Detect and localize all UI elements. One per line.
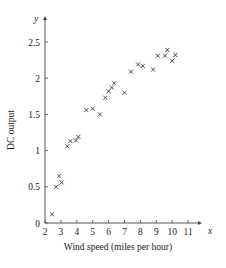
y-axis-arrow-icon xyxy=(43,16,47,20)
y-axis-variable: y xyxy=(33,14,39,24)
data-point-x-marker xyxy=(165,48,169,52)
data-point-x-marker xyxy=(151,68,155,72)
data-point-x-marker xyxy=(60,180,64,184)
data-point-x-marker xyxy=(76,135,80,139)
x-tick-label: 3 xyxy=(59,227,64,237)
data-point-x-marker xyxy=(98,112,102,116)
ticks: 23456789101100.511.522.5 xyxy=(28,38,193,238)
data-point-x-marker xyxy=(129,70,133,74)
x-tick-label: 6 xyxy=(106,227,111,237)
data-point-x-marker xyxy=(170,59,174,63)
x-tick-label: 10 xyxy=(167,227,177,237)
x-tick-label: 2 xyxy=(43,227,48,237)
data-point-x-marker xyxy=(57,174,61,178)
y-axis-label: DC output xyxy=(6,110,16,150)
data-point-x-marker xyxy=(123,91,127,95)
y-tick-label: 0.5 xyxy=(28,182,40,192)
x-axis-arrow-icon xyxy=(198,221,202,225)
x-tick-label: 4 xyxy=(74,227,79,237)
axes xyxy=(43,16,202,225)
x-tick-label: 5 xyxy=(90,227,95,237)
data-point-x-marker xyxy=(84,108,88,112)
data-point-x-marker xyxy=(173,53,177,57)
y-tick-label: 2 xyxy=(35,74,40,84)
y-tick-label: 0 xyxy=(35,219,40,229)
data-points xyxy=(50,48,177,216)
data-point-x-marker xyxy=(50,212,54,216)
data-point-x-marker xyxy=(54,185,58,189)
x-tick-label: 7 xyxy=(122,227,127,237)
data-point-x-marker xyxy=(91,107,95,111)
data-point-x-marker xyxy=(103,96,107,100)
scatter-chart: 23456789101100.511.522.5 Wind speed (mil… xyxy=(0,0,226,268)
x-axis-variable: x xyxy=(207,226,213,236)
data-point-x-marker xyxy=(136,62,140,66)
data-point-x-marker xyxy=(112,81,116,85)
data-point-x-marker xyxy=(156,54,160,58)
x-tick-label: 9 xyxy=(154,227,159,237)
x-tick-label: 11 xyxy=(184,227,193,237)
data-point-x-marker xyxy=(110,86,114,90)
data-point-x-marker xyxy=(74,138,78,142)
data-point-x-marker xyxy=(65,144,69,148)
x-axis-label: Wind speed (miles per hour) xyxy=(64,242,172,253)
y-tick-label: 2.5 xyxy=(28,38,40,48)
x-tick-label: 8 xyxy=(138,227,143,237)
data-point-x-marker xyxy=(163,54,167,58)
data-point-x-marker xyxy=(68,139,72,143)
y-tick-label: 1 xyxy=(35,146,40,156)
y-tick-label: 1.5 xyxy=(28,110,40,120)
data-point-x-marker xyxy=(141,64,145,68)
